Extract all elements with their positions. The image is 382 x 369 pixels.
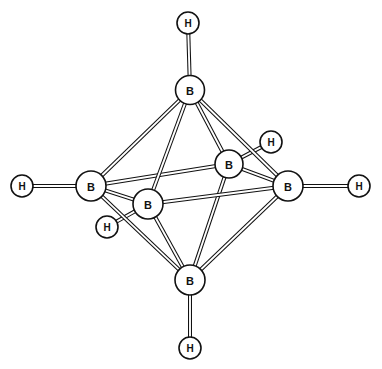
molecule-canvas: HHHHHHBBBBBB	[0, 0, 382, 369]
bond-B-front-B-left-fill	[104, 190, 134, 200]
atom-label-h-right: H	[355, 181, 362, 192]
atom-h-bottom[interactable]: H	[179, 337, 201, 359]
atom-h-front[interactable]: H	[96, 216, 118, 238]
atom-label-b-top: B	[186, 85, 194, 97]
bond-B-top-B-left-fill	[101, 99, 180, 176]
molecule-diagram: HHHHHHBBBBBB	[0, 0, 382, 369]
atom-b-bottom[interactable]: B	[175, 265, 205, 295]
bond-B-top-H-top-fill	[188, 33, 189, 77]
atom-b-front[interactable]: B	[133, 189, 163, 219]
atom-b-back[interactable]: B	[215, 150, 243, 178]
atom-b-left[interactable]: B	[76, 171, 106, 201]
atom-h-back[interactable]: H	[260, 131, 282, 153]
atom-label-h-top: H	[184, 18, 191, 29]
boron-boron-bond-layer	[101, 99, 278, 270]
atom-label-h-bottom: H	[186, 343, 193, 354]
atom-label-b-left: B	[87, 181, 95, 193]
atom-label-b-front: B	[144, 199, 152, 211]
atom-b-right[interactable]: B	[273, 171, 303, 201]
atom-h-top[interactable]: H	[177, 12, 199, 34]
atom-label-h-back: H	[267, 137, 274, 148]
atom-b-top[interactable]: B	[176, 76, 205, 105]
atom-h-left[interactable]: H	[11, 175, 33, 197]
atom-h-right[interactable]: H	[348, 175, 370, 197]
atom-label-b-right: B	[284, 181, 292, 193]
bond-B-bottom-B-right-fill	[200, 196, 278, 271]
atom-label-h-left: H	[18, 181, 25, 192]
atom-label-b-back: B	[225, 159, 233, 171]
atom-label-b-bottom: B	[186, 275, 194, 287]
bond-B-top-B-front-fill	[153, 103, 185, 191]
atom-label-h-front: H	[103, 222, 110, 233]
